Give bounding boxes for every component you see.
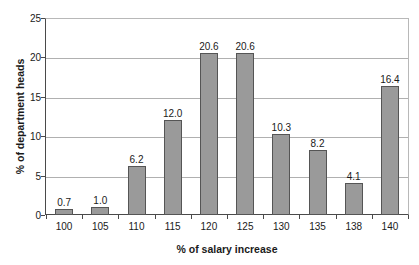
x-tick-label: 100	[46, 221, 82, 232]
bar[interactable]: 8.2	[309, 150, 327, 215]
bar-slot: 1.0	[82, 18, 118, 215]
x-tick-label: 115	[155, 221, 191, 232]
bar[interactable]: 4.1	[345, 183, 363, 215]
x-tick-mark	[336, 215, 337, 219]
x-tick-mark	[227, 215, 228, 219]
x-tick-mark	[191, 215, 192, 219]
bar-slot: 20.6	[227, 18, 263, 215]
x-tick-mark	[263, 215, 264, 219]
bar[interactable]: 1.0	[91, 207, 109, 215]
x-tick-mark	[118, 215, 119, 219]
bar[interactable]: 6.2	[128, 166, 146, 215]
x-tick-label: 140	[372, 221, 408, 232]
clipped-header-remnant	[150, 0, 410, 4]
x-tick-mark	[155, 215, 156, 219]
bar-slot: 12.0	[155, 18, 191, 215]
y-axis-ticks: 0 5 10 15 20 25	[5, 18, 41, 215]
bar-value-label: 10.3	[272, 122, 291, 133]
bar-slot: 4.1	[336, 18, 372, 215]
x-tick-mark	[299, 215, 300, 219]
x-axis-labels: 100 105 110 115 120 125 130 135 138 140	[46, 221, 408, 232]
bar-slot: 0.7	[46, 18, 82, 215]
y-tick-mark-0	[41, 215, 45, 216]
bar[interactable]: 10.3	[272, 134, 290, 215]
x-tick-mark	[408, 215, 409, 219]
bar-value-label: 0.7	[57, 197, 71, 208]
x-tick-label: 130	[263, 221, 299, 232]
bar-slot: 16.4	[372, 18, 408, 215]
x-tick-label: 120	[191, 221, 227, 232]
bars-layer: 0.7 1.0 6.2 12.0 20.6 20.6	[46, 18, 408, 215]
x-tick-label: 125	[227, 221, 263, 232]
x-axis-title: % of salary increase	[45, 243, 409, 255]
x-axis-ticks	[46, 215, 408, 220]
y-tick-label-20: 20	[11, 52, 41, 63]
bar[interactable]: 20.6	[200, 53, 218, 215]
bar-value-label: 8.2	[311, 138, 325, 149]
y-tick-label-0: 0	[11, 210, 41, 221]
bar-value-label: 6.2	[130, 154, 144, 165]
y-tick-label-15: 15	[11, 91, 41, 102]
bar-value-label: 20.6	[235, 41, 254, 52]
bar-slot: 20.6	[191, 18, 227, 215]
bar-value-label: 1.0	[93, 195, 107, 206]
bar[interactable]: 20.6	[236, 53, 254, 215]
bar-slot: 10.3	[263, 18, 299, 215]
bar[interactable]: 16.4	[381, 86, 399, 215]
y-tick-label-10: 10	[11, 131, 41, 142]
bar[interactable]: 12.0	[164, 120, 182, 215]
bar-value-label: 4.1	[347, 171, 361, 182]
bar-value-label: 12.0	[163, 108, 182, 119]
x-tick-label: 105	[82, 221, 118, 232]
bar-slot: 8.2	[299, 18, 335, 215]
x-tick-label: 138	[336, 221, 372, 232]
bar-value-label: 20.6	[199, 41, 218, 52]
bar-chart: % of department heads 0 5 10 15 20 25 0.…	[0, 0, 419, 265]
x-tick-mark	[82, 215, 83, 219]
y-tick-label-5: 5	[11, 170, 41, 181]
x-tick-label: 135	[299, 221, 335, 232]
bar-slot: 6.2	[118, 18, 154, 215]
x-tick-mark	[46, 215, 47, 219]
x-tick-mark	[372, 215, 373, 219]
bar-value-label: 16.4	[380, 74, 399, 85]
x-tick-label: 110	[118, 221, 154, 232]
y-tick-label-25: 25	[11, 13, 41, 24]
